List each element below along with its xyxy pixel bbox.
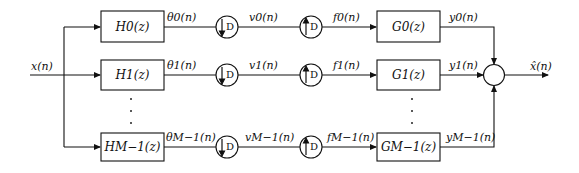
- ellipsis-dot: [130, 98, 132, 100]
- diagram-lines: [0, 0, 579, 173]
- upsampler-0: D: [310, 22, 318, 32]
- downsampler-0: D: [226, 22, 234, 32]
- synthesis-filter-g0: G0(z): [377, 21, 440, 33]
- filter-bank-diagram: x(n) x̂(n) H0(z) θ0(n) D v0(n) D f0(n) G…: [0, 0, 579, 173]
- ellipsis-dot: [411, 122, 413, 124]
- row-0-lines: [101, 11, 494, 64]
- analysis-filter-h0: H0(z): [101, 21, 164, 33]
- upsampler-1: D: [310, 70, 318, 80]
- theta1-label: θ1(n): [167, 60, 196, 71]
- vM1-label: vM−1(n): [245, 132, 294, 143]
- yM1-label: yM−1(n): [446, 132, 495, 143]
- f0-label: f0(n): [333, 12, 360, 23]
- v0-label: v0(n): [249, 12, 278, 23]
- fM1-label: fM−1(n): [327, 132, 374, 143]
- downsampler-1: D: [226, 70, 234, 80]
- thetaM1-label: θM−1(n): [166, 132, 216, 143]
- ellipsis-dot: [411, 110, 413, 112]
- output-signal-label: x̂(n): [530, 61, 552, 72]
- synthesis-filter-gm1: GM−1(z): [377, 141, 440, 153]
- v1-label: v1(n): [249, 60, 278, 71]
- analysis-filter-h1: H1(z): [101, 69, 164, 81]
- input-signal-label: x(n): [31, 61, 53, 72]
- y1-label: y1(n): [449, 60, 478, 71]
- ellipsis-dot: [411, 98, 413, 100]
- f1-label: f1(n): [333, 60, 360, 71]
- synthesis-filter-g1: G1(z): [377, 69, 440, 81]
- y0-label: y0(n): [449, 12, 478, 23]
- theta0-label: θ0(n): [167, 12, 196, 23]
- summation-node: [484, 65, 505, 86]
- downsampler-m1: D: [226, 142, 234, 152]
- upsampler-m1: D: [310, 142, 318, 152]
- analysis-filter-hm1: HM−1(z): [101, 141, 164, 153]
- ellipsis-dot: [130, 110, 132, 112]
- ellipsis-dot: [130, 122, 132, 124]
